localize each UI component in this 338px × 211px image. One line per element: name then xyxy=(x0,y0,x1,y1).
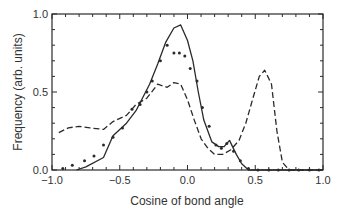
x-tick-label: −0.5 xyxy=(109,174,131,186)
axis-ticks xyxy=(52,14,323,170)
chart: −1.0−0.50.00.51.0 0.00.51.0 Cosine of bo… xyxy=(0,0,338,211)
x-tick-label: 0.5 xyxy=(248,174,263,186)
x-tick-label: 0.0 xyxy=(180,174,195,186)
plot-frame xyxy=(52,14,323,170)
x-axis-label: Cosine of bond angle xyxy=(130,194,244,208)
y-tick-labels: 0.00.51.0 xyxy=(33,8,48,176)
plot-border xyxy=(52,14,323,170)
data-series xyxy=(59,25,323,172)
series-dashed xyxy=(59,70,323,170)
series-dotted xyxy=(61,44,320,172)
y-tick-label: 1.0 xyxy=(33,8,48,20)
y-tick-label: 0.0 xyxy=(33,164,48,176)
series-solid xyxy=(76,25,323,170)
x-tick-labels: −1.0−0.50.00.51.0 xyxy=(41,174,331,186)
y-tick-label: 0.5 xyxy=(33,86,48,98)
y-axis-label: Frequency (arb. units) xyxy=(11,33,25,150)
x-tick-label: 1.0 xyxy=(315,174,330,186)
